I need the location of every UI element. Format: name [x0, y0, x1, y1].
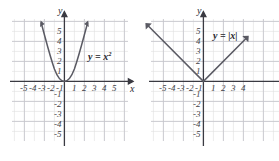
graph-panel-parabola: y x y = x2 -5 -4 -3 -2 -1 1 2 3 4 5 5 4 …	[0, 0, 140, 161]
y-tick-right-2: 2	[196, 57, 201, 66]
x-tick-right-4: 4	[241, 84, 246, 93]
x-tick-left-1: 1	[72, 84, 77, 93]
y-tick-right-5: 5	[196, 27, 201, 36]
x-tick-right--3: -3	[177, 84, 185, 93]
x-tick-left--3: -3	[38, 84, 46, 93]
y-tick-left-5: 5	[57, 27, 62, 36]
y-tick-right--3: -3	[193, 110, 201, 119]
major-grid-lines-left	[12, 19, 128, 141]
y-tick-right--2: -2	[193, 100, 201, 109]
y-tick-left--3: -3	[54, 110, 62, 119]
y-tick-right-3: 3	[196, 47, 201, 56]
x-tick-left--5: -5	[20, 84, 28, 93]
y-tick-right-1: 1	[196, 67, 201, 76]
graph-panel-absolute-value: y y = |x| -5 -4 -3 -2 -1 1 2 3 4 5 4 3 2…	[139, 0, 279, 161]
x-tick-left-4: 4	[102, 84, 107, 93]
x-tick-right--5: -5	[159, 84, 167, 93]
parabola-plot-svg	[0, 0, 140, 161]
x-tick-right-2: 2	[221, 84, 226, 93]
x-tick-right--4: -4	[168, 84, 176, 93]
x-axis-label-left: x	[130, 84, 134, 94]
y-axis-label-right: y	[197, 6, 201, 16]
x-tick-right-3: 3	[231, 84, 236, 93]
x-tick-right-1: 1	[211, 84, 216, 93]
y-axis-label-left: y	[58, 6, 62, 16]
minor-grid-lines-left	[12, 19, 128, 141]
y-tick-right-4: 4	[196, 37, 201, 46]
y-tick-left-2: 2	[57, 57, 62, 66]
y-tick-right--4: -4	[193, 120, 201, 129]
y-tick-left-4: 4	[57, 37, 62, 46]
equation-label-parabola: y = x2	[88, 51, 111, 62]
y-tick-left-1: 1	[57, 67, 62, 76]
two-graph-figure: y x y = x2 -5 -4 -3 -2 -1 1 2 3 4 5 5 4 …	[0, 0, 279, 161]
absolute-value-plot-svg	[139, 0, 279, 161]
y-tick-right--5: -5	[193, 130, 201, 139]
y-tick-left--2: -2	[54, 100, 62, 109]
equation-base-left: y = x	[88, 51, 108, 62]
y-tick-left--4: -4	[54, 120, 62, 129]
x-tick-left-2: 2	[82, 84, 87, 93]
y-axis-left	[62, 12, 67, 146]
equation-label-absolute-value: y = |x|	[213, 31, 238, 41]
y-tick-left--1: -1	[54, 90, 62, 99]
y-tick-left-3: 3	[57, 47, 62, 56]
x-tick-left--4: -4	[29, 84, 37, 93]
y-tick-right--1: -1	[193, 90, 201, 99]
x-tick-left-5: 5	[112, 84, 117, 93]
x-tick-left-3: 3	[92, 84, 97, 93]
y-tick-left--5: -5	[54, 130, 62, 139]
equation-exponent-left: 2	[108, 50, 111, 57]
